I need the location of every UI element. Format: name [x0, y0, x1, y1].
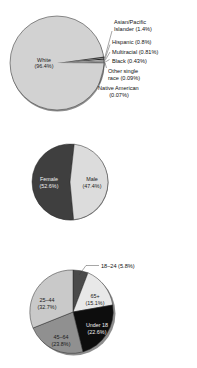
sex-label-male-line2: (47.4%)	[83, 183, 102, 189]
race-pie-svg: White (96.4%) Asian/Pacific Islander (1.…	[0, 0, 197, 122]
race-label-hispanic: Hispanic (0.8%)	[112, 39, 152, 45]
race-label-multiracial: Multiracial (0.81%)	[112, 49, 158, 55]
race-label-black: Black (0.43%)	[112, 58, 147, 64]
age-label-45-64-line2: (23.8%)	[52, 341, 71, 347]
age-label-25-44-line1: 25–44	[40, 297, 55, 303]
race-label-white-line1: White	[37, 57, 51, 63]
sex-label-male-line1: Male	[86, 176, 98, 182]
age-pie-svg: 18–24 (5.8%) 65+ (15.1%) Under 18 (22.6%…	[0, 252, 197, 368]
leader-hispanic	[105, 45, 110, 60]
race-label-native-american-line1: Native American	[98, 85, 139, 91]
race-label-asian-pacific-islander-line2: Islander (1.4%)	[114, 26, 152, 32]
age-pie-chart: 18–24 (5.8%) 65+ (15.1%) Under 18 (22.6%…	[0, 252, 197, 368]
race-label-other-single-race-line1: Other single	[108, 68, 138, 74]
age-label-45-64-line1: 45–64	[54, 334, 69, 340]
leader-asian-pacific-islander	[105, 31, 112, 57]
race-label-other-single-race-line2: race (0.09%)	[108, 75, 140, 81]
age-label-65-plus-line1: 65+	[90, 293, 99, 299]
race-pie-chart: White (96.4%) Asian/Pacific Islander (1.…	[0, 0, 197, 122]
sex-label-female-line1: Female	[40, 176, 58, 182]
leader-black	[105, 60, 110, 63]
age-label-25-44-line2: (32.7%)	[38, 304, 57, 310]
sex-pie-svg: Female (52.6%) Male (47.4%)	[0, 128, 197, 236]
age-label-under-18-line2: (22.6%)	[88, 329, 107, 335]
race-label-white-line2: (96.4%)	[35, 63, 54, 69]
leader-other-single-race	[105, 63, 107, 68]
age-label-65-plus-line2: (15.1%)	[86, 300, 105, 306]
sex-label-female-line2: (52.6%)	[40, 183, 59, 189]
sex-pie-chart: Female (52.6%) Male (47.4%)	[0, 128, 197, 236]
race-label-asian-pacific-islander-line1: Asian/Pacific	[114, 19, 146, 25]
age-label-under-18-line1: Under 18	[86, 322, 108, 328]
age-label-18-24: 18–24 (5.8%)	[101, 263, 135, 269]
race-label-native-american-line2: (0.07%)	[109, 92, 129, 98]
